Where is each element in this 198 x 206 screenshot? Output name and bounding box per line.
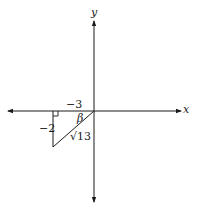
coordinate-plane: [0, 0, 198, 206]
y-axis-label: y: [91, 7, 97, 18]
hypotenuse-label: √13: [70, 131, 91, 142]
x-axis-label: x: [183, 104, 189, 115]
vertical-leg-label: −2: [39, 123, 55, 134]
right-angle-marker: [53, 111, 58, 116]
angle-beta-label: β: [77, 113, 83, 124]
horizontal-leg-label: −3: [66, 99, 82, 110]
